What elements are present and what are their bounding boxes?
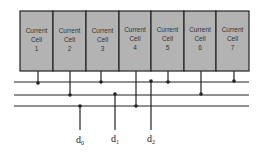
input-label-d1: d1 [111,133,119,145]
cell-5-label-line1: Current [157,26,179,33]
cell-1-label-line1: Current [26,27,48,34]
input-label-d2: d2 [147,133,155,145]
cell-connections [38,71,234,106]
cell-4-number: 4 [133,44,137,51]
cell-3-label-line2: Cell [97,36,109,43]
cell-3-label-line1: Current [92,27,114,34]
input-labels: d0 d1 d2 [76,133,155,146]
cell-4-label-line2: Cell [129,35,141,42]
current-cell-decoder-diagram: Current Cell 1 Current Cell 2 Current Ce… [0,0,261,154]
cell-5-number: 5 [166,44,170,51]
input-label-d0: d0 [76,134,84,146]
cell-5-label-line2: Cell [162,35,174,42]
cell-1-number: 1 [35,45,39,52]
cell-1-label-line2: Cell [31,36,43,43]
cell-7-label-line2: Cell [227,35,239,42]
cell-4-label-line1: Current [124,26,146,33]
cell-6-number: 6 [198,44,202,51]
cell-6-label-line1: Current [189,26,211,33]
cell-3-number: 3 [101,45,105,52]
cell-7-label-line1: Current [222,26,244,33]
cell-2-number: 2 [68,45,72,52]
bus-lines [14,82,249,106]
cell-7-number: 7 [231,44,235,51]
cell-6-label-line2: Cell [194,35,206,42]
cell-2-label-line2: Cell [64,36,76,43]
cell-2-label-line1: Current [59,27,81,34]
